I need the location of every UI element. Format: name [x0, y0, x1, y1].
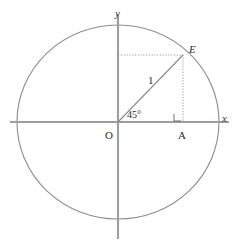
point-label-e: E — [189, 44, 196, 55]
right-angle-marker-icon — [174, 114, 181, 121]
radius-length-label: 1 — [148, 75, 154, 86]
y-axis-label: y — [115, 8, 120, 19]
figure-canvas — [0, 0, 243, 242]
x-axis-label: x — [222, 113, 227, 124]
angle-measure-label: 45° — [127, 110, 141, 120]
point-label-a: A — [178, 130, 186, 141]
point-label-origin: O — [105, 130, 113, 141]
unit-circle-figure: y x O E A 1 45° — [0, 0, 243, 242]
